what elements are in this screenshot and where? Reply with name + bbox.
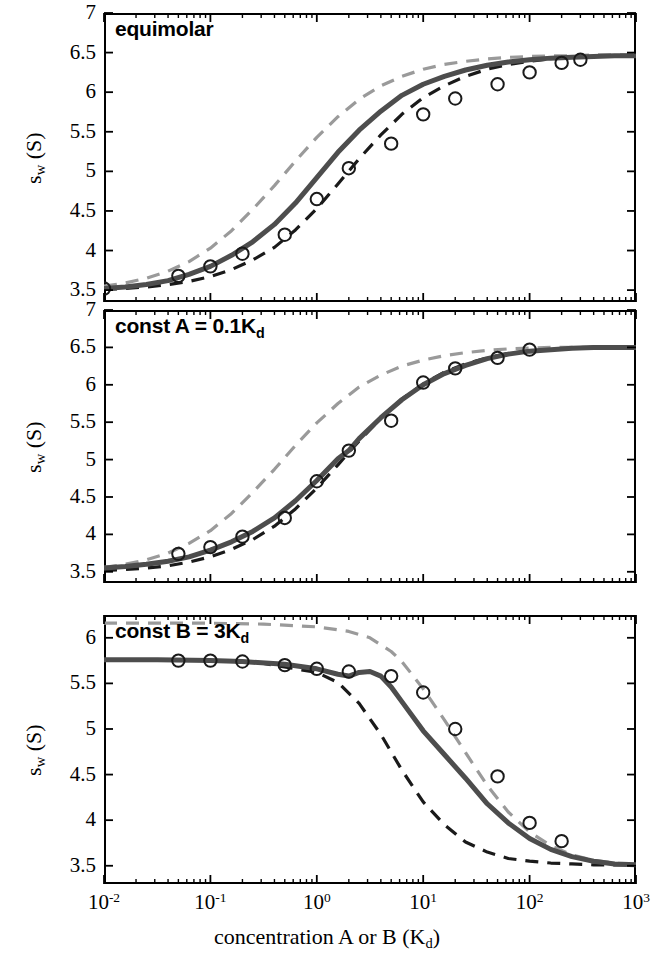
panel-title-0: equimolar [115, 17, 214, 41]
y-tick-label: 6.5 [36, 42, 96, 63]
y-tick-label: 7 [36, 299, 96, 320]
plot-frame-panel-0 [104, 13, 636, 302]
y-tick-label: 6 [36, 627, 96, 648]
x-tick-label: 100 [277, 890, 357, 915]
plot-frame-panel-2 [104, 615, 636, 884]
y-tick-label: 4 [36, 240, 96, 261]
y-tick-label: 6 [36, 81, 96, 102]
y-tick-label: 6 [36, 374, 96, 395]
x-axis-title: concentration A or B (Kd) [0, 924, 654, 952]
y-axis-title-panel-2: sw (S) [21, 715, 49, 785]
y-tick-label: 3.5 [36, 561, 96, 582]
y-tick-label: 4.5 [36, 486, 96, 507]
y-tick-label: 6.5 [36, 336, 96, 357]
panel-title-2: const B = 3Kd [115, 619, 249, 646]
plot-frame-panel-1 [104, 310, 636, 583]
y-tick-label: 3.5 [36, 855, 96, 876]
y-axis-title-panel-1: sw (S) [21, 412, 49, 482]
figure-sedimentation-isotherms: 3.544.555.566.57sw (S)equimolar3.544.555… [0, 0, 654, 972]
x-tick-label: 10-1 [170, 890, 250, 915]
y-tick-label: 4 [36, 523, 96, 544]
x-tick-label: 103 [596, 890, 654, 915]
x-tick-label: 102 [490, 890, 570, 915]
y-axis-title-panel-0: sw (S) [21, 123, 49, 193]
y-tick-label: 7 [36, 2, 96, 23]
y-tick-label: 4 [36, 809, 96, 830]
y-tick-label: 5.5 [36, 672, 96, 693]
panel-title-1: const A = 0.1Kd [115, 314, 264, 341]
x-tick-label: 10-2 [64, 890, 144, 915]
y-tick-label: 4.5 [36, 200, 96, 221]
x-tick-label: 101 [383, 890, 463, 915]
